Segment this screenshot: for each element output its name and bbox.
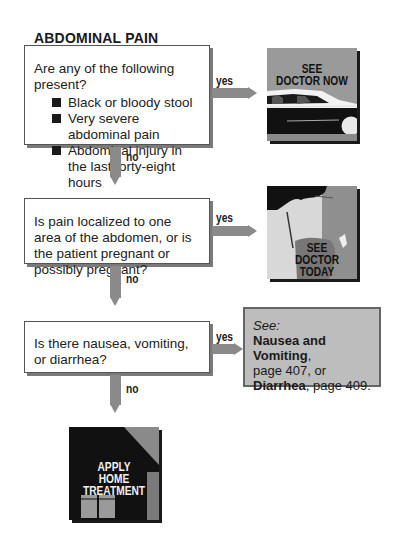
yes-label: yes bbox=[216, 211, 233, 225]
see-label: See: bbox=[253, 318, 280, 333]
list-item: Very severe abdominal pain bbox=[52, 111, 201, 143]
reference-page: , page 409. bbox=[306, 378, 371, 393]
yes-arrow-icon bbox=[212, 88, 248, 98]
yes-label: yes bbox=[216, 330, 233, 344]
reference-link-nausea[interactable]: Nausea and Vomiting bbox=[253, 333, 326, 363]
image-caption-line: TODAY bbox=[290, 266, 344, 278]
image-caption-line: TREATMENT bbox=[76, 485, 153, 497]
question-box-2: Is pain localized to one area of the abd… bbox=[24, 198, 210, 264]
no-arrow-icon bbox=[110, 266, 121, 298]
see-doctor-today-image: SEE DOCTOR TODAY bbox=[267, 186, 357, 279]
no-arrow-icon bbox=[110, 375, 121, 405]
reference-page: page 407, or bbox=[253, 363, 371, 378]
question-text: Are any of the following present? bbox=[34, 61, 201, 93]
no-arrow-icon bbox=[110, 147, 121, 177]
page-title: ABDOMINAL PAIN bbox=[34, 30, 158, 46]
image-caption-line: DOCTOR NOW bbox=[274, 75, 351, 87]
list-item: Black or bloody stool bbox=[52, 95, 201, 111]
question-text: Is there nausea, vomiting, or diarrhea? bbox=[34, 336, 201, 368]
reference-box: See: Nausea and Vomiting, page 407, or D… bbox=[243, 307, 381, 387]
reference-link-diarrhea[interactable]: Diarrhea bbox=[253, 378, 306, 393]
question-box-3: Is there nausea, vomiting, or diarrhea? bbox=[24, 321, 210, 373]
yes-arrow-icon bbox=[212, 226, 248, 236]
see-doctor-now-image: SEE DOCTOR NOW bbox=[267, 48, 357, 141]
yes-arrow-icon bbox=[212, 344, 234, 354]
apply-home-treatment-image: APPLY HOME TREATMENT bbox=[69, 427, 159, 520]
no-label: no bbox=[126, 272, 138, 286]
no-label: no bbox=[126, 150, 138, 164]
yes-label: yes bbox=[216, 74, 233, 88]
no-label: no bbox=[126, 382, 138, 396]
punctuation: , bbox=[308, 348, 312, 363]
question-box-1: Are any of the following present? Black … bbox=[24, 45, 210, 145]
